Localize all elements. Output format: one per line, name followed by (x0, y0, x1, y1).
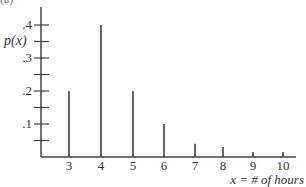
y-tick-label: .1 (22, 117, 32, 130)
axes (34, 7, 296, 157)
x-tick-label: 6 (161, 159, 168, 172)
x-tick-label: 9 (250, 159, 257, 172)
bars (69, 25, 283, 157)
x-tick-label: 7 (192, 159, 199, 172)
y-axis-label: p(x) (4, 34, 27, 47)
x-tick-label: 8 (220, 159, 227, 172)
x-tick-label: 5 (130, 159, 137, 172)
y-tick-label: .4 (22, 18, 32, 31)
probability-distribution-chart (0, 0, 306, 187)
x-tick-label: 3 (66, 159, 73, 172)
y-tick-label: .3 (22, 51, 32, 64)
x-axis-label: x = # of hours (230, 173, 304, 186)
x-tick-label: 10 (276, 159, 289, 172)
x-tick-label: 4 (98, 159, 105, 172)
y-tick-label: .2 (22, 84, 32, 97)
